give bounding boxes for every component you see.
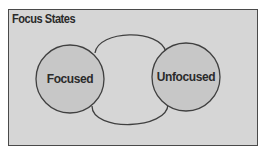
state-diagram: Focused Unfocused: [0, 0, 266, 153]
state-node-unfocused: Unfocused: [152, 43, 220, 111]
transition-arc-bottom: [92, 104, 168, 125]
state-label-focused: Focused: [47, 72, 94, 86]
state-node-focused: Focused: [36, 45, 104, 113]
transition-arc-top: [95, 35, 166, 53]
state-label-unfocused: Unfocused: [157, 70, 215, 84]
